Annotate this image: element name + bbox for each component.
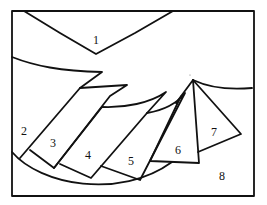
region-label-5: 5 (128, 155, 134, 167)
hand-upper-edge (12, 57, 102, 88)
bottom-arc (12, 152, 172, 184)
region-label-7: 7 (211, 126, 217, 138)
diagram-canvas (0, 0, 267, 205)
region-label-3: 3 (50, 137, 56, 149)
stray-dot (189, 74, 190, 75)
region-label-1: 1 (93, 34, 99, 46)
card-4-outline (54, 92, 166, 178)
card-7-outline (193, 80, 241, 152)
diagram-border (12, 11, 254, 196)
region-label-2: 2 (21, 125, 27, 137)
card-5-outline (101, 93, 185, 180)
region-label-4: 4 (85, 149, 91, 161)
region-label-8: 8 (219, 170, 225, 182)
hand-right-edge (193, 80, 252, 89)
region-label-6: 6 (175, 144, 181, 156)
